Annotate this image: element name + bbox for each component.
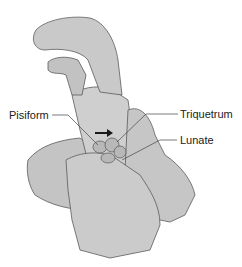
label-lunate: Lunate <box>180 134 214 146</box>
label-pisiform: Pisiform <box>9 109 49 121</box>
label-triquetrum: Triquetrum <box>180 108 233 120</box>
anatomy-figure: Pisiform Triquetrum Lunate <box>0 0 242 267</box>
